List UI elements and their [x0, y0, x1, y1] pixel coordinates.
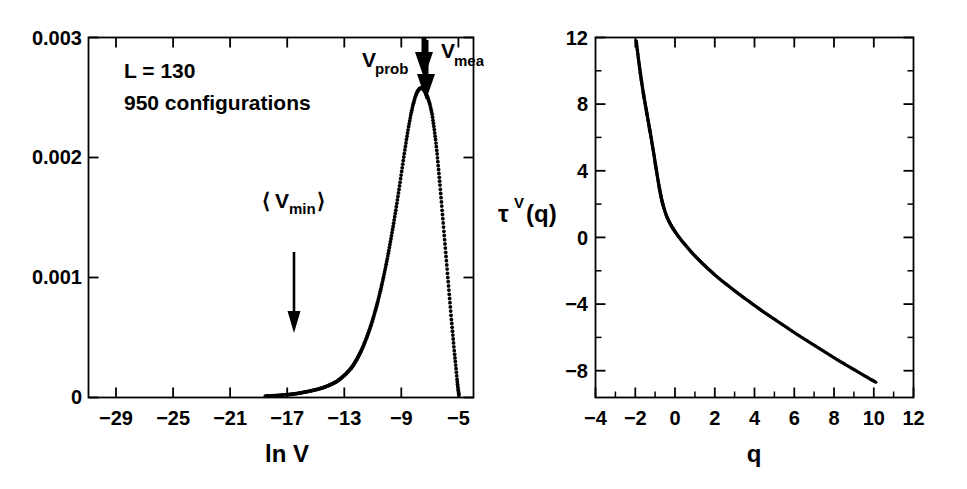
data-point: [436, 156, 440, 160]
data-point: [445, 263, 449, 267]
config-count-label: 950 configurations: [124, 91, 311, 114]
data-point: [454, 367, 458, 371]
data-point: [405, 138, 409, 142]
data-point: [443, 242, 447, 246]
data-point: [435, 152, 439, 156]
data-point: [398, 184, 402, 188]
data-point: [438, 187, 442, 191]
data-point: [394, 208, 398, 212]
right-xtick-label-2: 2: [709, 407, 720, 429]
data-point: [452, 341, 456, 345]
left-xtick-label-m21: −21: [213, 407, 247, 429]
data-point: [435, 148, 439, 152]
vmin-arrow-head: [288, 311, 301, 333]
vmin-close-bracket: ⟩: [317, 189, 325, 212]
data-point: [874, 380, 877, 383]
data-point: [441, 217, 445, 221]
data-point: [392, 221, 396, 225]
right-ytick-label-0: 0: [577, 227, 588, 249]
data-point: [443, 238, 447, 242]
data-point: [438, 179, 442, 183]
right-x-ticks: [596, 388, 914, 398]
tau-superscript-v: V: [514, 194, 524, 211]
vprob-subscript-label: prob: [375, 60, 408, 77]
data-point: [446, 271, 450, 275]
data-point: [393, 215, 397, 219]
data-point: [445, 267, 449, 271]
vmean-subscript-label: mean: [454, 52, 484, 69]
data-point: [438, 183, 442, 187]
data-point: [442, 229, 446, 233]
data-point: [437, 172, 441, 176]
data-point: [441, 213, 445, 217]
data-point: [457, 393, 461, 397]
left-xtick-label-m5: −5: [447, 407, 470, 429]
data-point: [439, 196, 443, 200]
data-point: [434, 145, 438, 149]
right-xtick-label-10: 10: [863, 407, 885, 429]
left-xtick-label-m25: −25: [156, 407, 190, 429]
data-point: [396, 195, 400, 199]
data-point: [454, 363, 458, 367]
data-point: [455, 374, 459, 378]
data-point: [448, 301, 452, 305]
data-point: [402, 155, 406, 159]
data-point: [453, 356, 457, 360]
left-ytick-label-0: 0: [71, 386, 82, 408]
right-ytick-label-4: 4: [577, 160, 589, 182]
data-point: [433, 134, 437, 138]
data-point: [405, 134, 409, 138]
data-point: [398, 180, 402, 184]
data-point: [397, 191, 401, 195]
right-panel-svg: 12 8 4 0 −4 −8 −4 −2 0 2 4 6 8 10 12 q τ…: [484, 0, 967, 489]
right-yaxis-title: τ V (q): [498, 194, 557, 227]
left-x-ticks-top: [116, 38, 458, 48]
data-point: [406, 128, 410, 132]
data-point: [444, 255, 448, 259]
vmin-open-bracket: ⟨: [262, 189, 270, 212]
vmean-base-label: V: [441, 39, 455, 62]
vmin-base-label: V: [275, 189, 289, 212]
data-point: [446, 276, 450, 280]
figure-root: 0 0.001 0.002 0.003 −29 −25 −21 −17 −13 …: [0, 0, 967, 489]
data-point: [447, 284, 451, 288]
data-point: [451, 333, 455, 337]
right-panel: 12 8 4 0 −4 −8 −4 −2 0 2 4 6 8 10 12 q τ…: [484, 0, 967, 489]
left-panel-svg: 0 0.001 0.002 0.003 −29 −25 −21 −17 −13 …: [0, 0, 484, 489]
left-y-ticks-right: [464, 38, 474, 398]
data-point: [451, 329, 455, 333]
data-point: [449, 309, 453, 313]
data-point: [453, 352, 457, 356]
data-point: [448, 305, 452, 309]
data-point: [400, 170, 404, 174]
data-point: [397, 188, 401, 192]
left-xtick-label-m17: −17: [270, 407, 304, 429]
data-point: [446, 280, 450, 284]
left-xtick-label-m13: −13: [327, 407, 361, 429]
data-point: [399, 173, 403, 177]
data-point: [450, 325, 454, 329]
right-xtick-label-12: 12: [902, 407, 924, 429]
right-xtick-label-m2: −2: [624, 407, 647, 429]
data-point: [436, 160, 440, 164]
right-xtick-label-0: 0: [669, 407, 680, 429]
data-point: [449, 313, 453, 317]
left-xtick-label-m29: −29: [99, 407, 133, 429]
data-point: [454, 370, 458, 374]
data-point: [395, 198, 399, 202]
left-panel: 0 0.001 0.002 0.003 −29 −25 −21 −17 −13 …: [0, 0, 484, 489]
data-point: [404, 141, 408, 145]
data-point: [440, 200, 444, 204]
right-x-ticks-top: [635, 38, 874, 48]
data-point: [402, 152, 406, 156]
left-data-points: [263, 86, 460, 398]
right-xtick-label-4: 4: [749, 407, 761, 429]
vprob-base-label: V: [362, 48, 376, 71]
right-xtick-label-8: 8: [828, 407, 839, 429]
data-point: [433, 131, 437, 135]
right-ytick-label-m8: −8: [565, 360, 588, 382]
data-point: [452, 349, 456, 353]
data-point: [393, 212, 397, 216]
data-point: [447, 292, 451, 296]
data-point: [395, 201, 399, 205]
